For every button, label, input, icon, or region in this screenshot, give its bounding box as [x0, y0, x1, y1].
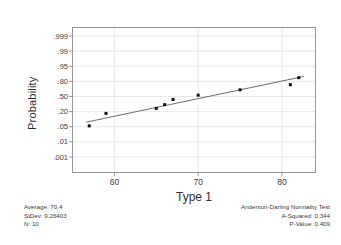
- y-tick-label: .99: [38, 47, 68, 56]
- plot-frame: [73, 28, 316, 173]
- x-tick-label: 70: [183, 177, 213, 187]
- x-tick-label: 60: [99, 177, 129, 187]
- y-tick-label: .01: [38, 137, 68, 146]
- y-tick-label: .20: [38, 107, 68, 116]
- sample-size-stat: N: 10: [24, 220, 67, 229]
- gridlines: [73, 28, 316, 173]
- fit-line: [86, 76, 304, 122]
- normality-test-title: Anderson-Darling Normality Test: [224, 203, 330, 212]
- normality-test-block: Anderson-Darling Normality Test A-Square…: [224, 203, 330, 229]
- y-tick-label: .95: [38, 62, 68, 71]
- descriptive-stats-block: Average: 70.4 StDev: 9.26403 N: 10: [24, 203, 67, 229]
- normal-probability-plot: .999.99.95.80.50.20.05.01.001 607080 Pro…: [0, 0, 341, 245]
- y-axis-title: Probability: [26, 76, 38, 130]
- p-value-stat: P-Value: 0.409: [224, 220, 330, 229]
- axis-ticks: [69, 36, 282, 176]
- y-tick-label: .999: [38, 32, 68, 41]
- y-tick-label: .001: [38, 153, 68, 162]
- a-squared-stat: A-Squared: 0.344: [224, 212, 330, 221]
- y-tick-label: .05: [38, 122, 68, 131]
- y-tick-label: .80: [38, 77, 68, 86]
- x-axis-title: Type 1: [134, 190, 254, 204]
- y-tick-label: .50: [38, 92, 68, 101]
- x-tick-label: 80: [267, 177, 297, 187]
- average-stat: Average: 70.4: [24, 203, 67, 212]
- stdev-stat: StDev: 9.26403: [24, 212, 67, 221]
